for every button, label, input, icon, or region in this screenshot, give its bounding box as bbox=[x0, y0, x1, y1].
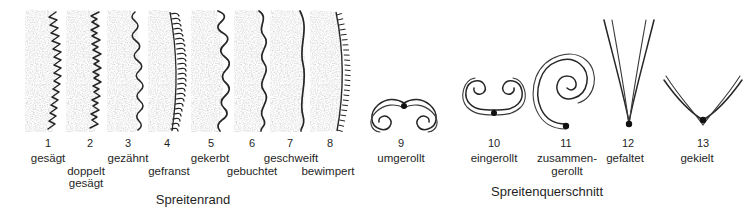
leaf-margin-4-fringed bbox=[148, 8, 194, 134]
margin-number-3: 3 bbox=[113, 137, 143, 149]
xsection-number-12: 12 bbox=[613, 137, 643, 149]
margin-number-7: 7 bbox=[275, 137, 305, 149]
margin-number-5: 5 bbox=[196, 137, 226, 149]
xsection-number-11: 11 bbox=[551, 137, 581, 149]
drawing-area bbox=[0, 0, 751, 136]
margin-label-5: gekerbt bbox=[178, 152, 242, 164]
margin-label-6: gebuchtet bbox=[216, 165, 288, 177]
xsection-label-11-line1: zusammen- bbox=[529, 152, 605, 164]
margin-label-4: gefranst bbox=[136, 165, 202, 177]
xsection-label-10: eingerollt bbox=[459, 152, 529, 164]
xsection-number-9: 9 bbox=[386, 137, 416, 149]
leaf-margin-1-serrate bbox=[25, 8, 71, 134]
margin-label-8: bewimpert bbox=[290, 165, 366, 177]
margin-label-1: gesägt bbox=[16, 152, 80, 164]
margin-number-4: 4 bbox=[152, 137, 182, 149]
margin-label-2-line2: gesägt bbox=[55, 177, 117, 189]
xsection-label-12: gefaltet bbox=[595, 152, 655, 164]
leaf-morphology-figure: 1 2 3 4 5 6 7 8 gesägt gezähnt gekerbt g… bbox=[0, 0, 751, 223]
leaf-margin-5-crenate bbox=[191, 8, 237, 134]
group-title-spreitenrand: Spreitenrand bbox=[128, 192, 258, 207]
leaf-cross-section-9-revolute bbox=[356, 78, 452, 132]
leaf-margin-3-dentate bbox=[107, 8, 153, 134]
caption-area: 1 2 3 4 5 6 7 8 gesägt gezähnt gekerbt g… bbox=[0, 136, 751, 223]
xsection-number-10: 10 bbox=[479, 137, 509, 149]
xsection-number-13: 13 bbox=[688, 137, 718, 149]
leaf-margin-2-doubly-serrate bbox=[66, 8, 112, 134]
leaf-margin-8-ciliate bbox=[308, 8, 354, 134]
leaf-cross-section-13-keeled bbox=[660, 62, 746, 132]
margin-number-2: 2 bbox=[75, 137, 105, 149]
margin-number-8: 8 bbox=[315, 137, 345, 149]
margin-label-3: gezähnt bbox=[96, 152, 160, 164]
margin-label-2-line1: doppelt bbox=[55, 165, 117, 177]
leaf-cross-section-12-conduplicate bbox=[592, 18, 666, 132]
margin-number-1: 1 bbox=[33, 137, 63, 149]
xsection-label-11-line2: gerollt bbox=[529, 165, 605, 177]
group-title-spreitenquerschnitt: Spreitenquerschnitt bbox=[452, 184, 642, 199]
xsection-label-13: gekielt bbox=[669, 152, 725, 164]
margin-label-7: geschweift bbox=[252, 152, 330, 164]
xsection-label-9: umgerollt bbox=[368, 152, 434, 164]
margin-number-6: 6 bbox=[237, 137, 267, 149]
